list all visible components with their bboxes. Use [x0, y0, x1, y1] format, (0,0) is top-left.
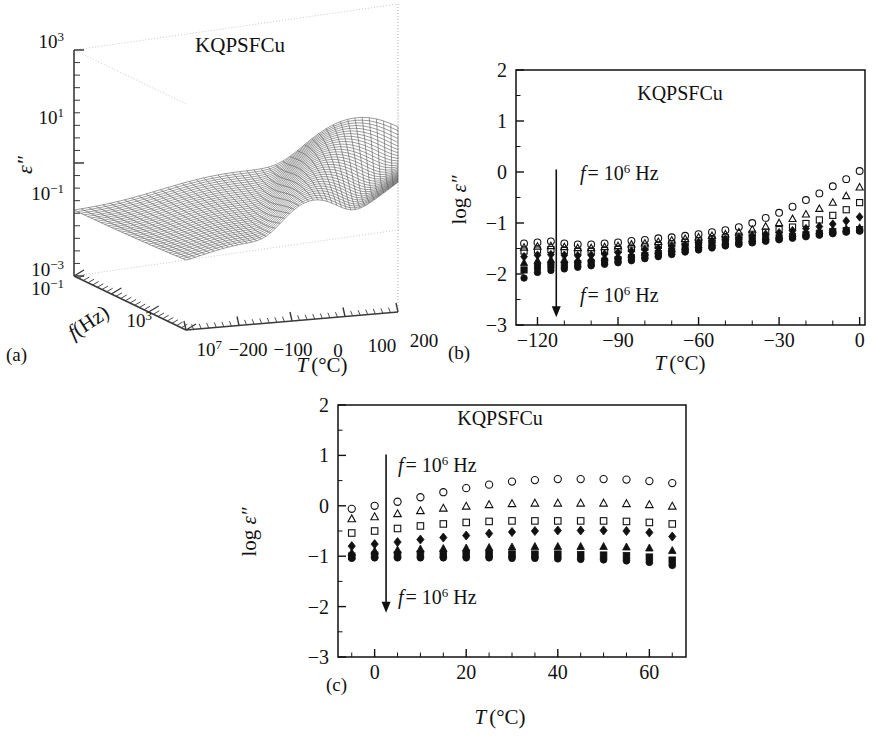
series-open-square: [521, 200, 863, 255]
z-tick-1000: 103: [39, 29, 65, 52]
series-open-circle: [521, 168, 863, 248]
y-tick-label: 2: [497, 59, 507, 81]
panel-a-sample-label: KQPSFCu: [195, 33, 285, 57]
x-tick-label: −120: [517, 329, 558, 351]
panel-b-x-tick-labels: −120−90−60−300: [517, 329, 865, 351]
x-tick-label: 0: [855, 329, 865, 351]
y-tick-label: −3: [486, 314, 507, 336]
panel-a-svg: 103 101 10−1 10−3 10−1 103 107 −200 −100…: [0, 0, 450, 372]
figure-root: 103 101 10−1 10−3 10−1 103 107 −200 −100…: [0, 0, 883, 738]
x-tick-label: −30: [763, 329, 794, 351]
panel-c-svg: −3−2−1012 0204060 KQPSFCu f= 106 Hz f= 1…: [210, 382, 710, 738]
y-tick-label: −2: [308, 596, 329, 618]
y-tick-label: 1: [319, 444, 329, 466]
panel-b-y-axis-title: log ε″: [447, 175, 471, 224]
panel-c-sample-label: KQPSFCu: [457, 407, 543, 429]
t-tick-200: 200: [410, 330, 439, 351]
f-tick-1e7: 107: [197, 337, 223, 360]
series-open-triangle: [520, 183, 863, 250]
panel-c-annotation-bottom: f= 106 Hz: [398, 585, 477, 609]
panel-c-tick-marks: [338, 405, 672, 657]
y-tick-label: 0: [319, 495, 329, 517]
panel-c-data-points: [348, 475, 676, 568]
y-tick-label: 2: [319, 394, 329, 416]
t-tick-100: 100: [368, 335, 397, 356]
y-tick-label: 1: [497, 110, 507, 132]
series-filled-diamond: [521, 213, 863, 261]
series-filled-circle: [521, 228, 863, 281]
panel-a-f-tick-labels: 10−1 103 107: [31, 276, 222, 360]
series-filled-triangle: [520, 224, 863, 266]
panel-b-svg: −3−2−1012 −120−90−60−300 KQPSFCu f= 106 …: [440, 40, 883, 380]
panel-a-surface-plot: 103 101 10−1 10−3 10−1 103 107 −200 −100…: [0, 0, 450, 372]
panel-c-x-axis-title: T(°C): [474, 705, 525, 729]
z-tick-0-1: 10−1: [31, 181, 64, 204]
panel-c-y-tick-labels: −3−2−1012: [308, 394, 329, 668]
panel-b-y-tick-labels: −3−2−1012: [486, 59, 507, 336]
panel-a-f-axis-title: f(Hz): [63, 300, 113, 344]
panel-b-annotation-top: f= 106 Hz: [580, 161, 659, 185]
x-tick-label: 40: [548, 661, 568, 683]
panel-b-axes-frame: [516, 70, 865, 325]
y-tick-label: −2: [486, 263, 507, 285]
y-tick-label: −3: [308, 646, 329, 668]
panel-b-caption: (b): [448, 342, 470, 364]
z-tick-10: 101: [39, 105, 65, 128]
panel-a-z-tick-labels: 103 101 10−1 10−3: [31, 29, 64, 280]
panel-c-caption: (c): [326, 674, 347, 696]
x-tick-label: −60: [683, 329, 714, 351]
x-tick-label: −90: [602, 329, 633, 351]
x-tick-label: 20: [456, 661, 476, 683]
panel-b-annotation-bottom: f= 106 Hz: [580, 283, 659, 307]
series-filled-square: [521, 227, 863, 274]
f-tick-1000: 103: [127, 308, 153, 331]
y-tick-label: −1: [486, 212, 507, 234]
t-tick--200: −200: [228, 339, 267, 360]
panel-a-t-axis-title: T(°C): [296, 353, 347, 377]
panel-c-decreasing-frequency-arrow: [382, 454, 391, 612]
panel-c-annotation-top: f= 106 Hz: [398, 453, 477, 477]
panel-a-wireframe-surface: [74, 117, 398, 260]
panel-c-scatter-plot: −3−2−1012 0204060 KQPSFCu f= 106 Hz f= 1…: [210, 382, 710, 738]
x-tick-label: 60: [639, 661, 659, 683]
x-tick-label: 0: [370, 661, 380, 683]
y-tick-label: 0: [497, 161, 507, 183]
svg-text:f(Hz): f(Hz): [63, 300, 113, 344]
panel-c-y-axis-title: log ε″: [237, 507, 261, 556]
panel-b-scatter-plot: −3−2−1012 −120−90−60−300 KQPSFCu f= 106 …: [440, 40, 883, 380]
panel-b-data-points: [520, 168, 863, 282]
panel-b-x-axis-title: T(°C): [654, 351, 705, 375]
panel-a-caption: (a): [6, 344, 27, 366]
f-tick-0-1: 10−1: [31, 276, 64, 299]
y-tick-label: −1: [308, 545, 329, 567]
panel-a-z-axis-title: ε″: [12, 155, 37, 174]
panel-b-sample-label: KQPSFCu: [637, 82, 723, 104]
panel-c-x-tick-labels: 0204060: [370, 661, 660, 683]
